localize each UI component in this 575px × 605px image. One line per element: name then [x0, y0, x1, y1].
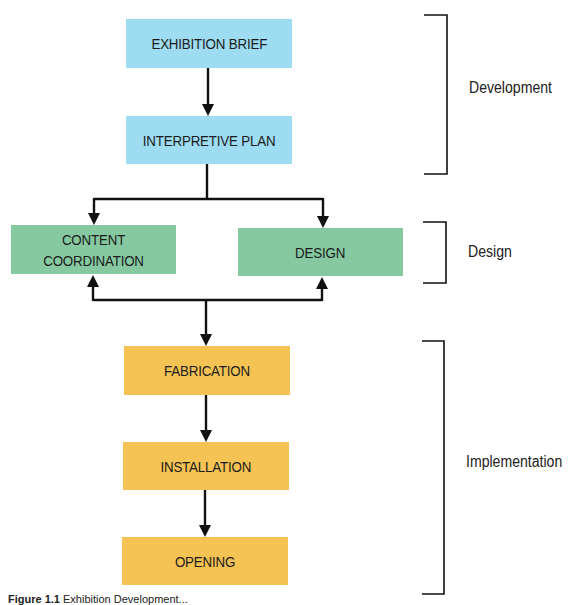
- node-opening: OPENING: [122, 537, 288, 585]
- node-exhibition-brief: EXHIBITION BRIEF: [126, 19, 292, 68]
- node-label: DESIGN: [295, 242, 345, 263]
- node-content-coordination: CONTENT COORDINATION: [11, 225, 176, 274]
- node-label: INTERPRETIVE PLAN: [143, 130, 276, 151]
- caption-label: Figure 1.1: [8, 593, 60, 605]
- node-label: EXHIBITION BRIEF: [151, 33, 267, 54]
- node-label: FABRICATION: [164, 360, 250, 381]
- node-design: DESIGN: [238, 228, 403, 276]
- node-label: OPENING: [175, 551, 235, 572]
- phase-label-development: Development: [469, 79, 552, 97]
- phase-label-implementation: Implementation: [466, 453, 562, 471]
- phase-label-design: Design: [468, 243, 512, 261]
- node-installation: INSTALLATION: [123, 442, 289, 490]
- node-fabrication: FABRICATION: [124, 346, 290, 395]
- caption-text: Exhibition Development...: [63, 593, 188, 605]
- node-label: INSTALLATION: [161, 456, 252, 477]
- node-label: CONTENT COORDINATION: [43, 229, 144, 271]
- figure-caption: Figure 1.1 Exhibition Development...: [8, 593, 188, 605]
- node-interpretive-plan: INTERPRETIVE PLAN: [126, 116, 292, 164]
